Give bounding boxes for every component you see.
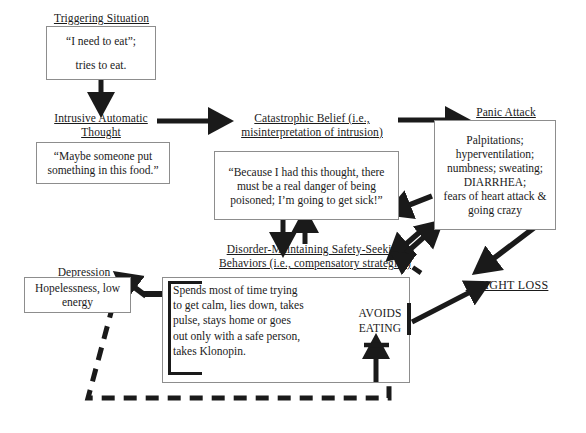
depression-line-2: energy	[28, 295, 127, 309]
panic-line-6: going crazy	[438, 203, 552, 217]
header-intrusive-thought-line1: Intrusive Automatic	[33, 112, 169, 125]
behaviors-text-block: Spends most of time trying to get calm, …	[173, 283, 349, 359]
box-panic-attack: Palpitations; hyperventilation; numbness…	[434, 120, 556, 230]
intrusive-line-1: “Maybe someone put	[40, 149, 166, 163]
panic-line-3: numbness; sweating;	[438, 161, 552, 175]
avoids-line-2: EATING	[352, 321, 408, 336]
avoids-line-1: AVOIDS	[352, 306, 408, 321]
header-behaviors-line2: Behaviors (i.e., compensatory strategies…	[190, 257, 440, 270]
catastrophic-line-3: poisoned; I’m going to get sick!”	[218, 193, 395, 207]
header-intrusive-thought-line2: Thought	[33, 126, 169, 139]
panic-line-5: fears of heart attack &	[438, 189, 552, 203]
box-triggering-situation: “I need to eat”; tries to eat.	[46, 26, 156, 80]
behaviors-line-1: Spends most of time trying	[173, 283, 349, 298]
edge-behaviors-to-depression	[126, 281, 162, 296]
box-depression: Hopelessness, low energy	[24, 277, 131, 313]
header-catastrophic-belief-line2: misinterpretation of intrusion)	[213, 126, 411, 139]
depression-line-1: Hopelessness, low	[28, 281, 127, 295]
header-triggering-situation: Triggering Situation	[40, 12, 163, 25]
box-intrusive-thought: “Maybe someone put something in this foo…	[36, 142, 170, 184]
behaviors-line-5: takes Klonopin.	[173, 344, 349, 359]
label-avoids-eating: AVOIDS EATING	[352, 306, 408, 336]
panic-line-1: Palpitations;	[438, 133, 552, 147]
catastrophic-line-1: “Because I had this thought, there	[218, 165, 395, 179]
header-behaviors-line1: Disorder-Maintaining Safety-Seeking	[199, 243, 431, 256]
triggering-line-1: “I need to eat”;	[50, 34, 152, 48]
behaviors-line-2: to get calm, lies down, takes	[173, 298, 349, 313]
panic-line-2: hyperventilation;	[438, 147, 552, 161]
edge-panic-to-catastrophic	[399, 196, 432, 209]
behaviors-line-4: out only with a safe person,	[173, 329, 349, 344]
edge-avoids-to-weightloss	[412, 288, 478, 322]
box-catastrophic-belief: “Because I had this thought, there must …	[214, 151, 399, 220]
panic-line-4-diarrhea: DIARRHEA;	[438, 175, 552, 189]
label-weight-loss: WEIGHT LOSS	[455, 279, 559, 292]
header-panic-attack: Panic Attack	[464, 106, 548, 119]
triggering-line-2: tries to eat.	[50, 58, 152, 72]
header-catastrophic-belief-line1: Catastrophic Belief (i.e.,	[224, 112, 400, 125]
behaviors-line-3: pulse, stays home or goes	[173, 313, 349, 328]
catastrophic-line-2: must be a real danger of being	[218, 179, 395, 193]
avoids-eating-emphasis-bar	[407, 303, 411, 335]
intrusive-line-2: something in this food.”	[40, 163, 166, 177]
diagram-canvas: Triggering Situation Intrusive Automatic…	[0, 0, 586, 433]
